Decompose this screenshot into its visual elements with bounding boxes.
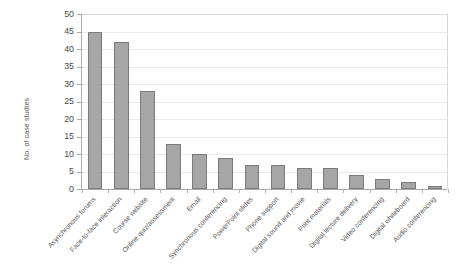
- x-axis-tick-mark: [317, 189, 318, 193]
- bar-chart: No. of case studies 50454035302520151050…: [0, 0, 466, 275]
- y-axis-tick-mark: [77, 67, 81, 68]
- x-axis-tick-mark: [448, 189, 449, 193]
- y-axis-tick-mark: [77, 32, 81, 33]
- y-axis-tick-mark: [77, 49, 81, 50]
- x-axis-tick-mark: [160, 189, 161, 193]
- y-axis-tick-mark: [77, 172, 81, 173]
- x-axis-tick-mark: [239, 189, 240, 193]
- x-axis-tick-mark: [82, 189, 83, 193]
- y-axis-tick-mark: [77, 14, 81, 15]
- y-axis-tick-mark: [77, 137, 81, 138]
- y-axis-tick-mark: [77, 84, 81, 85]
- y-axis-tick-mark: [77, 102, 81, 103]
- x-axis-tick-labels: Asynchronous forumsFace-to-face interact…: [0, 0, 466, 275]
- x-axis-tick-mark: [187, 189, 188, 193]
- x-axis-tick-mark: [291, 189, 292, 193]
- x-axis-tick-mark: [108, 189, 109, 193]
- x-axis-tick-mark: [422, 189, 423, 193]
- x-axis-tick-mark: [343, 189, 344, 193]
- y-axis-tick-mark: [77, 119, 81, 120]
- x-axis-tick-mark: [213, 189, 214, 193]
- y-axis-tick-mark: [77, 189, 81, 190]
- y-axis-tick-mark: [77, 154, 81, 155]
- x-axis-tick-mark: [134, 189, 135, 193]
- x-axis-tick-mark: [396, 189, 397, 193]
- x-axis-tick-mark: [370, 189, 371, 193]
- x-axis-tick-mark: [265, 189, 266, 193]
